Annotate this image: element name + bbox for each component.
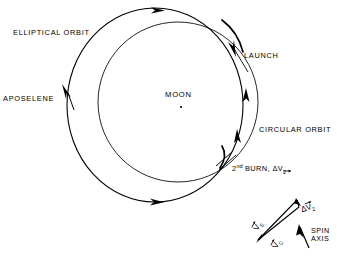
label-moon: MOON (165, 91, 192, 100)
direction-arrow-right-outer-icon (243, 88, 250, 102)
label-elliptical-orbit: ELLIPTICAL ORBIT (13, 29, 90, 38)
aposelene-arrow-tail (68, 93, 74, 110)
lunar-orbit-diagram: ELLIPTICAL ORBIT APOSELENE LAUNCH MOON C… (0, 0, 337, 263)
v-e-vector-line (258, 200, 297, 240)
second-burn-text: BURN, ΔV (243, 164, 284, 173)
spin-axis-arrowhead-icon (296, 224, 304, 238)
second-burn-subscript: 2 (283, 169, 286, 175)
elliptical-orbit-path (67, 8, 243, 202)
spin-axis-line (300, 227, 309, 248)
label-aposelene: APOSELENE (3, 95, 54, 104)
label-second-burn: 2nd BURN, ΔV2 (232, 163, 286, 175)
label-launch: LAUNCH (244, 52, 279, 61)
moon-center-dot (180, 106, 182, 108)
label-circular-orbit: CIRCULAR ORBIT (259, 126, 331, 135)
label-spin-axis: SPIN AXIS (311, 227, 330, 244)
spin-axis-line2: AXIS (311, 235, 330, 243)
